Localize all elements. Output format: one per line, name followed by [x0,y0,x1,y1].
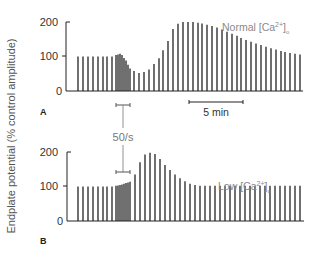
stimulation-annotation: 50/s [113,103,134,174]
stimulation-rate-label: 50/s [113,131,134,143]
panel-a-ytick-200: 200 [40,16,58,28]
y-axis-label: Endplate potential (% control amplitude) [5,38,17,233]
panel-a-ytick-0: 0 [56,85,62,97]
figure: Endplate potential (% control amplitude)… [0,0,318,256]
time-scale-bar: 5 min [189,100,243,118]
panel-b-ytick-200: 200 [40,146,58,158]
panel-a-condition-label: Normal [Ca2+]o [222,21,290,35]
panel-a-label: A [40,107,47,117]
panel-b-ytick-100: 100 [40,180,58,192]
panel-a: 200 100 0 Normal [Ca2+]o A 5 min [40,16,303,118]
panel-b-condition-label: Low [Ca2+]o [218,180,271,194]
panel-b: 200 100 0 Low [Ca2+]o B [40,146,304,246]
panel-b-ytick-0: 0 [57,215,63,227]
panel-b-label: B [40,236,47,246]
panel-a-ytick-100: 100 [40,50,58,62]
time-scale-label: 5 min [203,106,229,118]
